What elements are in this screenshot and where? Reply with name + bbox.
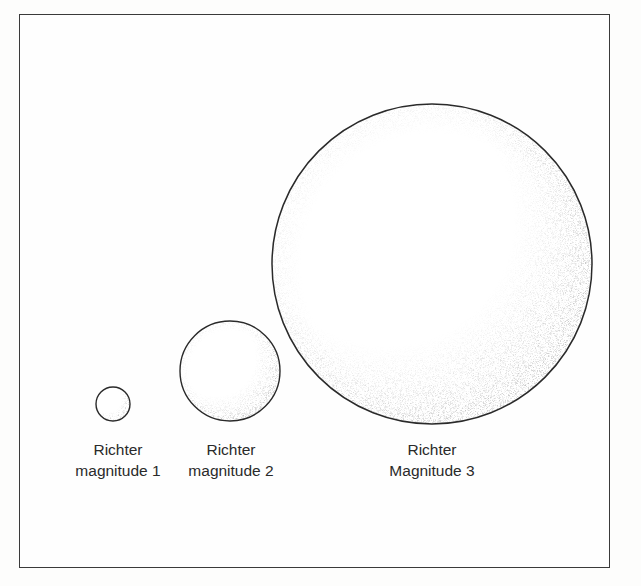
label-magnitude-2: Richter magnitude 2 — [188, 439, 273, 481]
label-magnitude-1: Richter magnitude 1 — [75, 439, 160, 481]
label-magnitude-1-line1: Richter — [75, 439, 160, 460]
circle-magnitude-3 — [272, 104, 592, 424]
label-magnitude-3-line1: Richter — [389, 439, 474, 460]
label-magnitude-3: Richter Magnitude 3 — [389, 439, 474, 481]
magnitude-circles-diagram — [0, 0, 641, 586]
circle-magnitude-1 — [96, 387, 130, 421]
label-magnitude-2-line1: Richter — [188, 439, 273, 460]
label-magnitude-3-line2: Magnitude 3 — [389, 460, 474, 481]
label-magnitude-2-line2: magnitude 2 — [188, 460, 273, 481]
circle-magnitude-2 — [180, 321, 280, 421]
label-magnitude-1-line2: magnitude 1 — [75, 460, 160, 481]
